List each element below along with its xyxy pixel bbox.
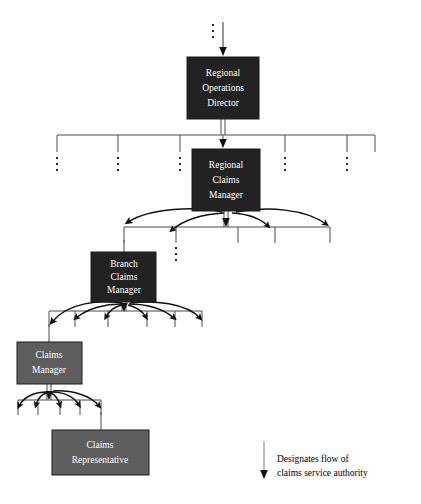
node-label-line: Claims xyxy=(111,272,138,282)
node-label-line: Operations xyxy=(202,83,244,93)
node-branch-claims-manager[interactable]: Branch Claims Manager xyxy=(91,252,156,302)
vertical-ellipsis-top xyxy=(212,24,214,38)
legend: Designates flow of claims service author… xyxy=(260,441,368,479)
cm-authority-curves xyxy=(19,391,99,406)
node-label-line: Regional xyxy=(209,160,244,170)
incoming-authority-arrow xyxy=(212,22,227,56)
node-claims-manager[interactable]: Claims Manager xyxy=(17,342,82,384)
node-label-line: Director xyxy=(207,98,239,108)
node-label-line: Claims xyxy=(36,350,63,360)
node-label-line: Manager xyxy=(32,365,67,375)
node-label-line: Manager xyxy=(107,285,142,295)
org-chart-page: Regional Operations Director Regional Cl… xyxy=(0,0,421,504)
node-label-line: Claims xyxy=(213,175,240,185)
node-regional-claims-manager[interactable]: Regional Claims Manager xyxy=(192,149,260,211)
claims-manager-peer-bar xyxy=(49,311,202,327)
node-label-line: Manager xyxy=(209,190,244,200)
down-arrow-icon xyxy=(260,470,268,479)
node-regional-operations-director[interactable]: Regional Operations Director xyxy=(187,57,259,119)
rod-to-rcm-connector xyxy=(219,119,227,148)
node-claims-representative[interactable]: Claims Representative xyxy=(52,430,149,475)
node-label-line: Representative xyxy=(72,455,128,465)
node-label-line: Claims xyxy=(87,440,114,450)
peer-ellipses-row-2 xyxy=(175,247,177,261)
node-label-line: Regional xyxy=(206,68,241,78)
legend-line: claims service authority xyxy=(277,468,368,478)
node-label-line: Branch xyxy=(110,259,138,269)
org-chart-canvas: Regional Operations Director Regional Cl… xyxy=(0,0,421,504)
legend-line: Designates flow of xyxy=(277,454,350,464)
